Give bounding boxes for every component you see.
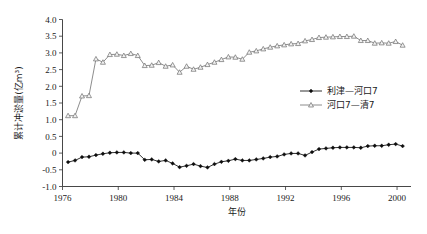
series-1-point [394,142,398,146]
series-1-point [387,143,391,147]
series-1-point [331,146,335,150]
legend-label-1: 利津—河口7 [327,85,378,96]
series-2-point [93,56,98,61]
x-tick-label: 1988 [221,193,240,203]
series-2-point [184,64,189,69]
series-1-point [366,144,370,148]
y-tick-label: -1.0 [42,182,57,192]
x-tick-label: 1980 [109,193,128,203]
series-1-point [289,152,293,156]
series-1-point [164,159,168,163]
series-1-point [220,160,224,164]
line-chart: -1.0-0.500.51.01.52.02.53.03.54.01976198… [0,0,427,234]
y-tick-label: 0.5 [45,132,57,142]
x-tick-label: 1996 [332,193,351,203]
series-1-point [275,155,279,159]
series-1-point [150,158,154,162]
x-axis-title: 年份 [228,206,246,217]
series-1-point [380,144,384,148]
y-tick-label: 1.5 [45,98,57,108]
legend-label-2: 河口7—清7 [327,99,374,110]
series-1-point [401,144,405,148]
series-1-point [213,162,217,166]
y-tick-label: -0.5 [42,165,57,175]
series-1-point [282,153,286,157]
series-1-point [317,147,321,151]
y-tick-label: 4.0 [45,15,57,25]
series-1-point [199,164,203,168]
series-1-point [373,144,377,148]
series-1-point [108,151,112,155]
y-tick-label: 3.5 [45,31,57,41]
series-2-point [128,51,133,56]
series-1-point [66,160,70,164]
series-2-point [393,39,398,44]
series-1-point [296,152,300,156]
series-2-point [400,43,405,48]
x-tick-label: 2000 [388,193,407,203]
series-2-point [156,60,161,65]
y-tick-label: 2.0 [45,82,57,92]
series-1-point [254,158,258,162]
x-tick-label: 1992 [277,193,295,203]
series-1-point [324,147,328,151]
series-1-point [345,146,349,150]
series-1-point [268,155,272,159]
chart-figure: -1.0-0.500.51.01.52.02.53.03.54.01976198… [0,0,427,234]
x-tick-label: 1976 [54,193,73,203]
series-1-point [73,159,77,163]
y-tick-label: 3.0 [45,48,57,58]
y-tick-label: 1.0 [45,115,57,125]
series-1-point [94,153,98,157]
series-1-point [206,166,210,170]
series-1-point [122,151,126,155]
series-1-point [115,151,119,155]
series-1-point [185,164,189,168]
series-1-point [129,151,133,155]
series-1-point [101,152,105,156]
series-1-point [171,162,175,166]
y-tick-label: 0 [52,148,57,158]
x-tick-label: 1984 [165,193,184,203]
series-1-point [178,165,182,169]
series-1-point [338,146,342,150]
y-axis-title: 累计冲淤量(亿m³) [13,66,24,139]
series-1-point [359,146,363,150]
series-1-point [87,155,91,159]
legend-marker-1 [309,89,313,93]
series-1-point [80,155,84,159]
series-1-point [157,160,161,164]
series-1-point [310,150,314,154]
series-1-point [352,146,356,150]
series-1-point [303,154,307,158]
series-2-point [170,62,175,67]
series-1-point [247,159,251,163]
series-1-point [240,159,244,163]
series-1-point [261,157,265,161]
y-tick-label: 2.5 [45,65,57,75]
series-1-point [192,162,196,166]
series-1-point [233,157,237,161]
series-1-point [226,159,230,163]
